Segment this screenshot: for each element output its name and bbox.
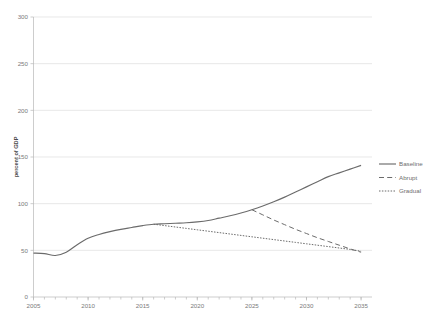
x-tick-label: 2010 — [81, 302, 95, 309]
series-line-baseline — [34, 165, 362, 255]
y-tick-label: 300 — [18, 13, 29, 20]
y-tick-labels-group: 050100150200250300 — [18, 13, 34, 300]
x-tick-label: 2030 — [300, 302, 314, 309]
series-line-gradual — [154, 224, 361, 251]
legend-label-gradual: Gradual — [399, 187, 421, 194]
x-tick-label: 2015 — [136, 302, 150, 309]
y-tick-label: 200 — [18, 107, 29, 114]
legend-label-abrupt: Abrupt — [399, 174, 418, 181]
x-tick-label: 2005 — [27, 302, 41, 309]
y-tick-label: 100 — [18, 200, 29, 207]
chart-container: 050100150200250300 200520102015202020252… — [0, 0, 425, 323]
y-tick-label: 50 — [21, 247, 28, 254]
data-series-group — [34, 165, 362, 255]
x-tick-label: 2025 — [245, 302, 259, 309]
series-line-abrupt — [252, 210, 361, 252]
gridlines-group — [34, 17, 373, 250]
x-tick-labels-group: 2005201020152020202520302035 — [27, 297, 369, 309]
line-chart: 050100150200250300 200520102015202020252… — [0, 0, 425, 323]
x-tick-label: 2020 — [190, 302, 204, 309]
y-axis-title: percent of GDP — [13, 136, 19, 177]
y-tick-label: 150 — [18, 153, 29, 160]
y-tick-label: 250 — [18, 60, 29, 67]
y-tick-label: 0 — [25, 293, 29, 300]
x-tick-label: 2035 — [354, 302, 368, 309]
legend-label-baseline: Baseline — [399, 160, 423, 167]
chart-legend: BaselineAbruptGradual — [379, 160, 423, 194]
